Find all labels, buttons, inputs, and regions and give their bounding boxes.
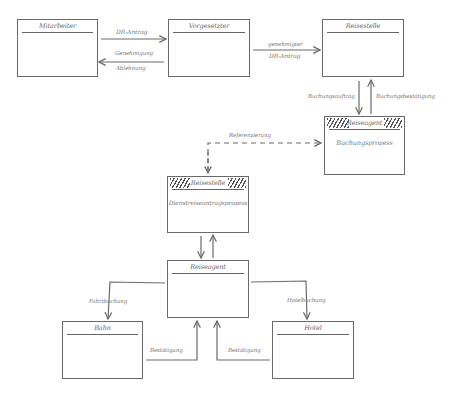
box-body: Buchungsprozess bbox=[325, 139, 404, 147]
box-title: Mitarbeiter bbox=[18, 20, 97, 32]
label-bestaetigung-bahn: Bestätigung bbox=[150, 346, 183, 354]
diagram-canvas: Mitarbeiter Vorgesetzter Reisestelle Rei… bbox=[0, 0, 450, 395]
arrow-bestaetigung-hotel bbox=[217, 321, 270, 360]
label-genehmigung: Genehmigung bbox=[115, 49, 153, 57]
box-body: Dienstreiseantragsprozess bbox=[168, 199, 248, 206]
title-divider bbox=[67, 334, 138, 335]
label-dr-antrag-2: DR-Antrag bbox=[269, 52, 300, 60]
box-title: Reisestelle bbox=[168, 177, 248, 189]
box-reisestelle-dienstreiseantragsprozess: Reisestelle Dienstreiseantragsprozess bbox=[167, 176, 249, 233]
box-title: Reisestelle bbox=[323, 20, 403, 32]
label-bestaetigung-hotel: Bestätigung bbox=[228, 346, 261, 354]
box-title: Vorgesetzter bbox=[169, 20, 249, 32]
label-dr-antrag: DR-Antrag bbox=[116, 28, 147, 36]
label-ablehnung: Ablehnung bbox=[116, 64, 145, 72]
label-referenzierung: Referenzierung bbox=[229, 131, 271, 139]
label-buchungsbestaetigung: Buchungsbestätigung bbox=[376, 92, 435, 100]
box-title: Reiseagent bbox=[325, 117, 404, 129]
box-title: Reiseagent bbox=[168, 261, 248, 273]
title-divider bbox=[22, 32, 93, 33]
title-divider bbox=[277, 334, 349, 335]
label-genehmigter: genehmigter bbox=[268, 40, 303, 48]
box-reiseagent: Reiseagent bbox=[167, 260, 249, 318]
box-bahn: Bahn bbox=[62, 321, 143, 379]
title-divider bbox=[172, 189, 244, 190]
label-fahrtbuchung: Fahrtbuchung bbox=[89, 297, 127, 305]
title-divider bbox=[329, 129, 400, 130]
label-buchungsauftrag: Buchungsauftrag bbox=[308, 92, 355, 100]
box-title: Hotel bbox=[273, 322, 353, 334]
box-reiseagent-buchungsprozess: Reiseagent Buchungsprozess bbox=[324, 116, 405, 175]
title-divider bbox=[327, 32, 399, 33]
title-divider bbox=[173, 32, 245, 33]
box-reisestelle: Reisestelle bbox=[322, 19, 404, 77]
arrow-referenzierung bbox=[208, 143, 321, 172]
box-vorgesetzter: Vorgesetzter bbox=[168, 19, 250, 77]
box-hotel: Hotel bbox=[272, 321, 354, 379]
arrow-bestaetigung-bahn bbox=[146, 321, 197, 360]
box-title: Bahn bbox=[63, 322, 142, 334]
box-mitarbeiter: Mitarbeiter bbox=[17, 19, 98, 77]
label-hotelbuchung: Hotelbuchung bbox=[287, 296, 325, 304]
title-divider bbox=[172, 273, 244, 274]
